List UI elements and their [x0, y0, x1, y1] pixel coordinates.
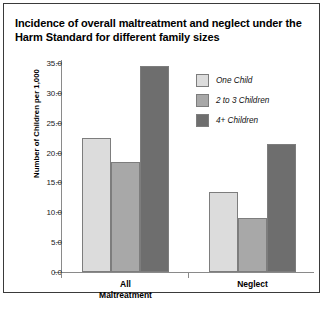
bar	[140, 66, 169, 272]
y-tick-label: 5.0	[30, 238, 62, 247]
legend-label-one-child: One Child	[216, 76, 252, 85]
legend-item-one-child: One Child	[196, 72, 269, 88]
legend-label-2-to-3-children: 2 to 3 Children	[216, 96, 269, 105]
x-axis-line	[54, 272, 314, 273]
plot-area: Number of Children per 1,000 0.05.010.01…	[4, 4, 321, 294]
bar	[82, 138, 111, 272]
legend-item-4-plus-children: 4+ Children	[196, 112, 269, 128]
x-category-label: Neglect	[198, 279, 308, 290]
y-tick-label-wrap: 0.0	[18, 272, 62, 273]
legend-swatch-2-to-3-children	[196, 94, 209, 107]
x-category-label-line: Neglect	[198, 279, 308, 290]
legend-item-2-to-3-children: 2 to 3 Children	[196, 92, 269, 108]
x-tick	[188, 273, 189, 278]
x-tick	[61, 273, 62, 278]
figure: Incidence of overall maltreatment and ne…	[0, 0, 327, 314]
y-tick-label-wrap: 15.0	[18, 182, 62, 183]
chart-frame: Incidence of overall maltreatment and ne…	[3, 3, 320, 293]
y-tick-label-wrap: 20.0	[18, 153, 62, 154]
y-tick-label-wrap: 10.0	[18, 212, 62, 213]
y-tick-label-wrap: 25.0	[18, 123, 62, 124]
y-tick-label: 20.0	[30, 148, 62, 157]
bar	[209, 192, 238, 272]
y-tick-label: 25.0	[30, 118, 62, 127]
legend-swatch-one-child	[196, 74, 209, 87]
y-tick-label: 15.0	[30, 178, 62, 187]
bar	[267, 144, 296, 272]
bar	[238, 218, 267, 272]
y-tick-label: 10.0	[30, 208, 62, 217]
y-tick-label-wrap: 5.0	[18, 242, 62, 243]
y-tick-label-wrap: 35.0	[18, 63, 62, 64]
legend: One Child 2 to 3 Children 4+ Children	[196, 72, 269, 132]
legend-swatch-4-plus-children	[196, 114, 209, 127]
x-category-label: AllMaltreatment	[71, 279, 181, 300]
y-tick-label: 30.0	[30, 88, 62, 97]
bar	[111, 162, 140, 272]
x-category-label-line: Maltreatment	[71, 290, 181, 301]
x-category-label-line: All	[71, 279, 181, 290]
legend-label-4-plus-children: 4+ Children	[216, 116, 258, 125]
y-tick-label-wrap: 30.0	[18, 93, 62, 94]
y-tick-label: 0.0	[30, 268, 62, 277]
y-tick-label: 35.0	[30, 59, 62, 68]
